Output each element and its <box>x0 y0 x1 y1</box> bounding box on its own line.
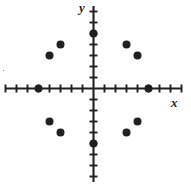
data-point <box>46 118 54 126</box>
y-axis-label: y <box>79 1 85 14</box>
data-point <box>145 85 153 93</box>
data-point <box>46 52 54 60</box>
data-point <box>134 118 142 126</box>
coordinate-plane-figure: y x <box>0 0 191 188</box>
coordinate-plane-canvas <box>0 0 191 188</box>
data-point <box>90 30 98 38</box>
data-point <box>123 129 131 137</box>
x-axis-label: x <box>171 96 178 109</box>
data-point <box>57 41 65 49</box>
stray-speck <box>3 70 4 71</box>
data-point <box>134 52 142 60</box>
data-point <box>123 41 131 49</box>
data-point <box>35 85 43 93</box>
data-point <box>57 129 65 137</box>
data-point <box>90 140 98 148</box>
